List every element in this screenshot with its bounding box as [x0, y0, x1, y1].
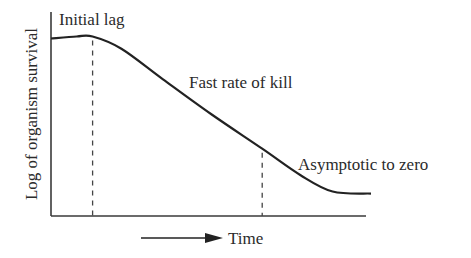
x-axis-label: Time: [228, 229, 263, 248]
survival-diagram: Initial lag Fast rate of kill Asymptotic…: [0, 0, 471, 258]
annotation-initial-lag: Initial lag: [59, 10, 125, 29]
annotation-fast-rate: Fast rate of kill: [189, 73, 293, 92]
y-axis-label: Log of organism survival: [22, 28, 41, 200]
time-arrow-icon: [205, 233, 223, 243]
annotation-asymptotic: Asymptotic to zero: [298, 155, 428, 174]
